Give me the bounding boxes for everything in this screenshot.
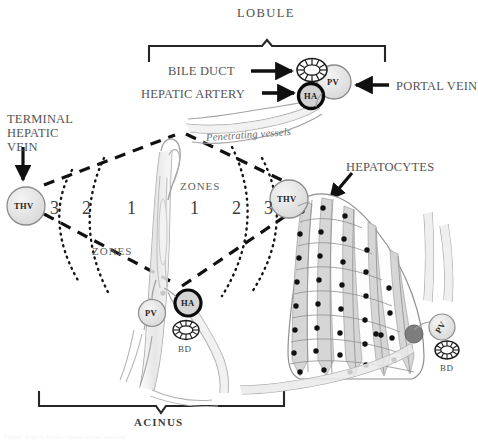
lobule-bracket-label: LOBULE bbox=[237, 6, 295, 20]
zone-number-right-3: 3 bbox=[264, 198, 273, 218]
bd-top-shape bbox=[297, 59, 327, 82]
zone-number-left-1: 1 bbox=[127, 198, 136, 218]
hepatic-artery-label: HEPATIC ARTERY bbox=[141, 87, 245, 101]
zones-label-right: ZONES bbox=[180, 180, 220, 192]
bd-right-label: BD bbox=[440, 363, 454, 373]
acinus-bracket-label: ACINUS bbox=[134, 416, 183, 428]
liver-lobule-acinus-figure: LOBULE ACINUS BILE DUCT HEPATIC ARTERY P… bbox=[0, 0, 478, 443]
ha-top-label: HA bbox=[304, 92, 317, 102]
hepatocytes-arrow bbox=[330, 173, 352, 199]
zone-number-right-2: 2 bbox=[232, 198, 241, 218]
bd-bottom-label: BD bbox=[178, 344, 192, 354]
zone-number-right-1: 1 bbox=[190, 198, 199, 218]
figure-caption: Figure: hepatic lobule versus acinus zon… bbox=[4, 434, 126, 441]
zone-number-left-3: 3 bbox=[50, 198, 59, 218]
ha-bottom-label: HA bbox=[181, 299, 194, 309]
hepatocyte-mass bbox=[240, 194, 453, 394]
portal-vein-label: PORTAL VEIN bbox=[396, 79, 477, 93]
zone-number-left-2: 2 bbox=[82, 198, 91, 218]
bd-bottom-shape bbox=[173, 321, 199, 340]
terminal-hepatic-vein-label: TERMINAL HEPATIC VEIN bbox=[7, 112, 73, 154]
zones-label-left: ZONES bbox=[92, 245, 132, 257]
terminal-branch-sphere bbox=[405, 325, 423, 343]
bile-duct-label: BILE DUCT bbox=[168, 64, 235, 78]
pv-top-label: PV bbox=[327, 78, 339, 88]
thv-left-label: THV bbox=[14, 202, 33, 212]
pv-bottom-label: PV bbox=[145, 309, 157, 319]
diagram-vector-layer bbox=[0, 0, 478, 443]
lobule-bracket bbox=[149, 40, 385, 62]
bd-right-shape bbox=[435, 341, 459, 359]
hepatocytes-label: HEPATOCYTES bbox=[346, 160, 434, 174]
thv-right-label: THV bbox=[277, 195, 296, 205]
